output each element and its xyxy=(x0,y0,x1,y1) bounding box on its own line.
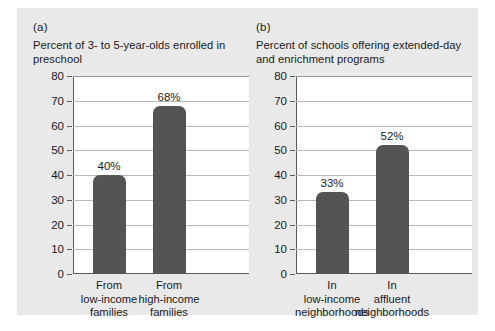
category-label: Fromlow-incomefamilies xyxy=(81,279,138,320)
y-tick-50 xyxy=(290,150,295,151)
y-tick-label-50: 50 xyxy=(274,144,287,156)
bar xyxy=(316,192,349,274)
y-tick-80 xyxy=(290,76,295,77)
bar xyxy=(376,145,409,274)
category-label-line: neighborhoods xyxy=(355,306,429,320)
y-tick-40 xyxy=(290,175,295,176)
gridline-80 xyxy=(296,76,472,77)
y-tick-60 xyxy=(290,126,295,127)
y-tick-10 xyxy=(290,249,295,250)
y-tick-label-0: 0 xyxy=(58,268,64,280)
y-tick-80 xyxy=(67,76,72,77)
gridline-80 xyxy=(73,76,249,77)
y-tick-60 xyxy=(67,126,72,127)
y-tick-label-80: 80 xyxy=(274,70,287,82)
panel-b-letter: (b) xyxy=(256,21,271,33)
gridline-60 xyxy=(296,126,472,127)
y-tick-40 xyxy=(67,175,72,176)
category-label-line: families xyxy=(139,306,200,320)
y-tick-50 xyxy=(67,150,72,151)
y-tick-label-40: 40 xyxy=(274,169,287,181)
bar xyxy=(153,106,186,274)
category-label-line: From xyxy=(139,279,200,293)
y-tick-label-50: 50 xyxy=(51,144,64,156)
y-tick-20 xyxy=(67,225,72,226)
bar xyxy=(93,175,126,274)
chart-panel-a: (a) Percent of 3- to 5-year-olds enrolle… xyxy=(33,8,249,315)
panel-a-letter: (a) xyxy=(33,21,48,33)
y-tick-label-20: 20 xyxy=(274,219,287,231)
y-tick-0 xyxy=(290,274,295,275)
figure-panel: (a) Percent of 3- to 5-year-olds enrolle… xyxy=(17,8,478,315)
category-label-line: From xyxy=(81,279,138,293)
bar-value-label: 68% xyxy=(157,91,180,103)
y-tick-10 xyxy=(67,249,72,250)
plot-a: 01020304050607080 40%68% Fromlow-incomef… xyxy=(73,76,249,274)
y-tick-0 xyxy=(67,274,72,275)
y-tick-label-10: 10 xyxy=(51,243,64,255)
category-label-line: affluent xyxy=(355,293,429,307)
y-tick-label-30: 30 xyxy=(51,194,64,206)
y-tick-label-70: 70 xyxy=(274,95,287,107)
plot-b: 01020304050607080 33%52% Inlow-incomenei… xyxy=(296,76,472,274)
category-label-line: families xyxy=(81,306,138,320)
y-tick-label-40: 40 xyxy=(51,169,64,181)
y-tick-70 xyxy=(290,101,295,102)
y-tick-label-20: 20 xyxy=(51,219,64,231)
y-tick-30 xyxy=(67,200,72,201)
bar-value-label: 52% xyxy=(380,130,403,142)
bar-value-label: 33% xyxy=(320,177,343,189)
y-tick-label-70: 70 xyxy=(51,95,64,107)
y-tick-label-10: 10 xyxy=(274,243,287,255)
category-label-line: In xyxy=(355,279,429,293)
y-tick-20 xyxy=(290,225,295,226)
panel-a-caption: Percent of 3- to 5-year-olds enrolled in… xyxy=(33,38,249,66)
y-tick-30 xyxy=(290,200,295,201)
y-tick-label-80: 80 xyxy=(51,70,64,82)
panel-b-caption: Percent of schools offering extended-day… xyxy=(256,38,472,66)
y-tick-label-30: 30 xyxy=(274,194,287,206)
y-tick-label-0: 0 xyxy=(281,268,287,280)
y-tick-label-60: 60 xyxy=(274,120,287,132)
category-label: Inaffluentneighborhoods xyxy=(355,279,429,320)
gridline-70 xyxy=(296,101,472,102)
category-label-line: high-income xyxy=(139,293,200,307)
chart-panel-b: (b) Percent of schools offering extended… xyxy=(256,8,472,315)
category-label: Fromhigh-incomefamilies xyxy=(139,279,200,320)
category-label-line: low-income xyxy=(81,293,138,307)
bar-value-label: 40% xyxy=(97,160,120,172)
y-tick-70 xyxy=(67,101,72,102)
y-tick-label-60: 60 xyxy=(51,120,64,132)
